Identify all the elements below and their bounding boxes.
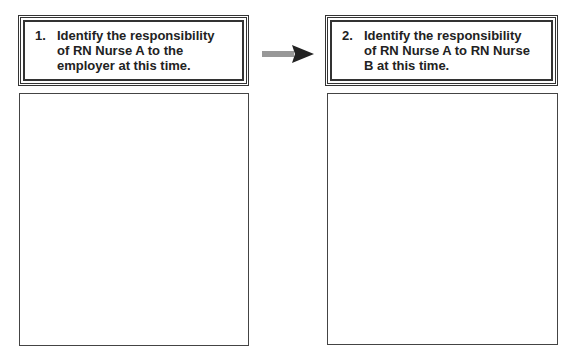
question-text-1-line-2: of RN Nurse A to the — [57, 43, 214, 58]
answer-box-1 — [19, 93, 249, 346]
question-box-2: 2. Identify the responsibility of RN Nur… — [325, 15, 558, 86]
question-text-1-line-3: employer at this time. — [57, 58, 214, 73]
question-text-2-line-3: B at this time. — [364, 58, 530, 73]
question-box-1-inner: 1. Identify the responsibility of RN Nur… — [23, 20, 244, 81]
question-text-2-line-2: of RN Nurse A to RN Nurse — [364, 43, 530, 58]
answer-box-2 — [327, 93, 558, 345]
right-arrow-icon — [262, 44, 316, 64]
question-number-1: 1. — [35, 28, 57, 43]
question-box-2-inner: 2. Identify the responsibility of RN Nur… — [330, 20, 553, 81]
question-text-2: Identify the responsibility of RN Nurse … — [364, 28, 530, 73]
question-text-1-line-1: Identify the responsibility — [57, 28, 214, 43]
question-text-2-line-1: Identify the responsibility — [364, 28, 530, 43]
question-box-1: 1. Identify the responsibility of RN Nur… — [18, 15, 249, 86]
question-text-1: Identify the responsibility of RN Nurse … — [57, 28, 214, 73]
question-number-2: 2. — [342, 28, 364, 43]
